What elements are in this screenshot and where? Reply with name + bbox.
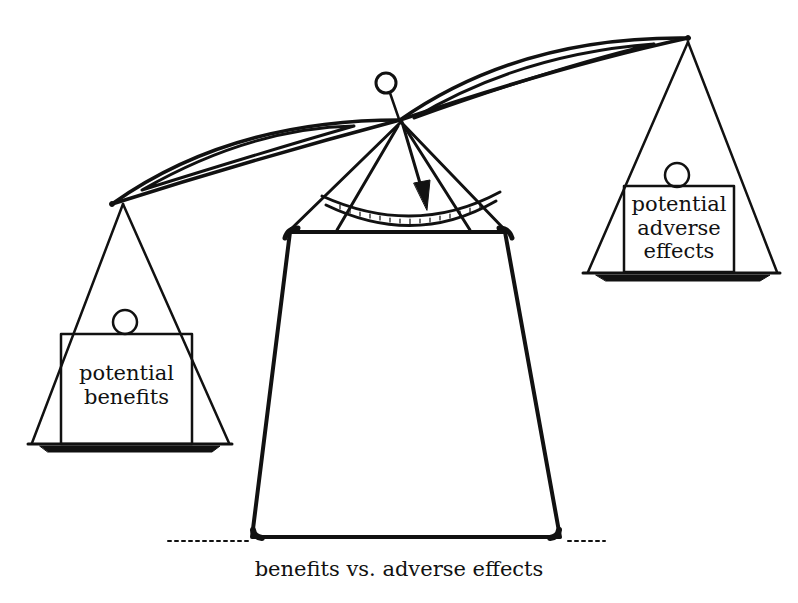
beam-left-arm <box>112 120 400 204</box>
beam-right-arm <box>400 38 688 120</box>
balance-scale-diagram: potential benefits potential adverse eff… <box>0 0 798 603</box>
diagram-caption: benefits vs. adverse effects <box>0 557 798 581</box>
adverse-label-line-1: potential <box>624 193 734 217</box>
benefits-label-line-2: benefits <box>61 386 192 410</box>
benefits-label-line-1: potential <box>61 362 192 386</box>
pivot-knob <box>376 73 396 93</box>
benefits-label: potential benefits <box>61 362 192 409</box>
adverse-effects-label: potential adverse effects <box>624 193 734 264</box>
right-pan <box>583 273 780 281</box>
adverse-label-line-2: adverse <box>624 217 734 241</box>
pointer-arrow <box>402 122 430 210</box>
balance-scale-drawing <box>0 0 798 603</box>
adverse-label-line-3: effects <box>624 240 734 264</box>
scale-pedestal <box>252 228 560 538</box>
